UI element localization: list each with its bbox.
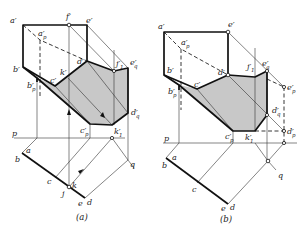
svg-text:q: q — [266, 64, 270, 71]
diagram-canvas: a′ f′ e′ a′ p b′ b′ p c′ k′ d′ j′ 1 e′ q… — [0, 0, 302, 234]
label-e-b: e — [221, 204, 226, 213]
svg-text:p: p — [32, 86, 36, 93]
label-j: j — [60, 189, 65, 198]
svg-text:p: p — [230, 137, 234, 144]
label-k-prime: k′ — [60, 68, 67, 77]
svg-text:p: p — [292, 88, 296, 95]
label-b-prime: b′ — [13, 65, 20, 74]
label-d-prime-b: d′ — [218, 68, 225, 77]
label-a-b: a — [172, 153, 177, 162]
label-a-prime: a′ — [10, 16, 17, 25]
svg-text:1: 1 — [119, 132, 123, 138]
panel-a: a′ f′ e′ a′ p b′ b′ p c′ k′ d′ j′ 1 e′ q… — [10, 12, 140, 222]
svg-text:p: p — [173, 92, 177, 99]
label-e-prime-b: e′ — [228, 20, 235, 29]
label-c-prime-b: c′ — [194, 80, 200, 89]
label-e-prime: e′ — [86, 16, 93, 25]
label-c-prime: c′ — [50, 76, 56, 85]
point-q-b — [266, 159, 270, 163]
caption-a: (a) — [76, 212, 88, 222]
hidden-edge-a — [23, 25, 87, 61]
point-d-q-b — [265, 113, 268, 116]
svg-text:q: q — [134, 63, 138, 70]
svg-text:1: 1 — [120, 64, 124, 70]
svg-text:p: p — [43, 34, 47, 41]
label-e: e — [78, 199, 83, 208]
svg-text:p: p — [292, 132, 296, 139]
point-f-prime — [67, 23, 71, 27]
label-c-b: c — [192, 185, 197, 194]
label-c: c — [47, 177, 52, 186]
arrow-up-icon — [67, 109, 71, 115]
label-d-prime: d′ — [77, 57, 84, 66]
point-e-p-b — [282, 85, 285, 88]
caption-b: (b) — [220, 214, 232, 224]
point-k1-ground — [110, 136, 113, 139]
label-p-b: p — [164, 134, 169, 143]
svg-text:p: p — [85, 131, 89, 138]
label-b-b: b — [162, 161, 167, 170]
point-jk — [67, 185, 71, 189]
point-d-p-b — [282, 129, 285, 132]
panel-b: a′ e′ a′ p b′ b′ p c′ d′ j′ 1 e′ q e′ p … — [158, 20, 297, 224]
svg-text:q: q — [277, 111, 281, 118]
svg-text:q: q — [136, 113, 140, 120]
svg-text:1: 1 — [251, 67, 255, 73]
point-j1 — [112, 69, 115, 72]
label-k: k — [72, 181, 77, 190]
point-ground-b — [282, 141, 285, 144]
label-q: q — [130, 160, 135, 169]
label-q-b: q — [278, 171, 283, 180]
label-f-prime: f′ — [65, 12, 71, 21]
svg-text:p: p — [186, 43, 190, 50]
label-p: p — [12, 129, 17, 138]
label-d-b: d — [230, 203, 235, 212]
plan-edge-b — [166, 158, 228, 204]
label-b-prime-b: b′ — [167, 66, 174, 75]
label-d: d — [87, 198, 92, 207]
label-a-prime-b: a′ — [158, 22, 165, 31]
label-a: a — [26, 146, 31, 155]
plan-edge-a — [22, 153, 85, 198]
label-b: b — [15, 155, 20, 164]
point-d-prime-b — [226, 73, 230, 77]
point-e-prime-b — [226, 30, 230, 34]
svg-text:1: 1 — [250, 138, 254, 144]
